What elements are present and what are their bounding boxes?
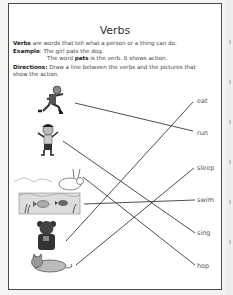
verb-swim: swim: [197, 196, 214, 204]
singing-girl-icon: [38, 124, 58, 155]
verb-sing: sing: [197, 229, 210, 237]
line-run: [75, 103, 193, 131]
matching-lines: [0, 0, 233, 295]
hopping-rabbit-icon: [14, 169, 84, 190]
eating-bear-icon: [37, 221, 56, 250]
running-boy-icon: [38, 86, 63, 113]
sleeping-cat-icon: [32, 254, 72, 272]
verb-eat: eat: [197, 97, 208, 105]
line-eat: [66, 102, 193, 241]
swimming-fish-icon: [19, 193, 80, 214]
verb-hop: hop: [197, 262, 209, 270]
verb-sleep: sleep: [197, 164, 214, 172]
line-sing: [63, 141, 195, 233]
verb-run: run: [197, 129, 208, 137]
